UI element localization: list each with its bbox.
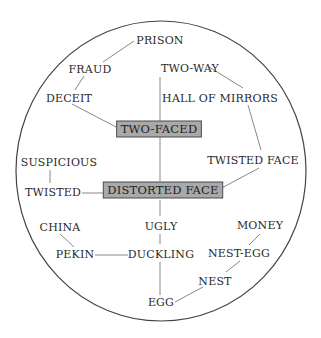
node-label: FRAUD	[69, 63, 112, 76]
node-label: DECEIT	[46, 92, 93, 105]
node-label: TWO-WAY	[161, 62, 220, 75]
node-nest-egg: NEST-EGG	[208, 247, 270, 260]
node-suspicious: SUSPICIOUS	[21, 156, 98, 169]
node-hall-of-mirrors: HALL OF MIRRORS	[162, 92, 278, 105]
node-duckling: DUCKLING	[128, 248, 194, 261]
node-money: MONEY	[237, 219, 284, 232]
node-label: EGG	[148, 296, 174, 309]
node-label: PRISON	[136, 34, 184, 47]
node-label: TWISTED	[25, 186, 81, 199]
node-twisted: TWISTED	[25, 186, 81, 199]
node-fraud: FRAUD	[69, 63, 112, 76]
node-label: TWISTED FACE	[207, 154, 299, 167]
node-two-way: TWO-WAY	[161, 62, 220, 75]
node-label: NEST-EGG	[208, 247, 270, 260]
node-prison: PRISON	[136, 34, 184, 47]
node-label: TWO-FACED	[121, 122, 198, 136]
node-two-faced: TWO-FACED	[117, 121, 202, 137]
background	[0, 0, 321, 338]
node-label: MONEY	[237, 219, 284, 232]
node-distorted-face: DISTORTED FACE	[103, 182, 222, 198]
node-nest: NEST	[198, 275, 232, 288]
node-pekin: PEKIN	[56, 248, 95, 261]
node-label: HALL OF MIRRORS	[162, 92, 278, 105]
node-twisted-face: TWISTED FACE	[207, 154, 299, 167]
node-deceit: DECEIT	[46, 92, 93, 105]
node-label: CHINA	[40, 221, 82, 234]
word-association-diagram: PRISONFRAUDDECEITTWO-WAYHALL OF MIRRORST…	[0, 0, 321, 338]
node-label: DUCKLING	[128, 248, 194, 261]
node-egg: EGG	[148, 296, 174, 309]
node-label: PEKIN	[56, 248, 95, 261]
node-label: UGLY	[145, 220, 178, 233]
node-label: DISTORTED FACE	[107, 183, 218, 197]
node-label: SUSPICIOUS	[21, 156, 98, 169]
node-label: NEST	[198, 275, 232, 288]
node-china: CHINA	[40, 221, 82, 234]
node-ugly: UGLY	[145, 220, 178, 233]
